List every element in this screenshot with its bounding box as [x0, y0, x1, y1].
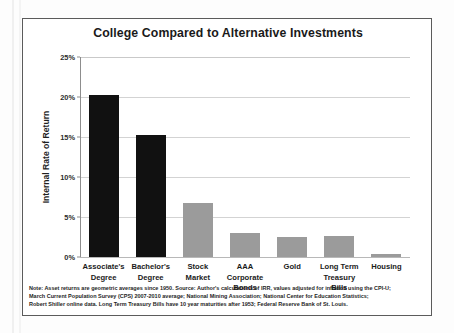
- y-axis-line: [80, 57, 81, 257]
- x-axis-label-line: Degree: [127, 273, 174, 284]
- y-tick-mark: [77, 257, 80, 258]
- bar: [136, 135, 166, 257]
- y-tick-label: 5%: [64, 213, 75, 222]
- x-axis-label: StockMarket: [174, 262, 221, 283]
- y-tick-mark: [77, 97, 80, 98]
- y-tick-label: 20%: [60, 93, 75, 102]
- gridline: [80, 177, 410, 178]
- x-axis-label-line: Gold: [269, 262, 316, 273]
- gridline: [80, 257, 410, 258]
- scanned-page: College Compared to Alternative Investme…: [0, 0, 454, 333]
- gridline: [80, 57, 410, 58]
- x-axis-label-line: Long Term: [316, 262, 363, 273]
- x-axis-label-line: Market: [174, 273, 221, 284]
- y-axis-title-text: Internal Rate of Return: [41, 111, 51, 204]
- x-axis-label-line: Housing: [363, 262, 410, 273]
- bar: [183, 203, 213, 257]
- x-axis-label-line: Associate's: [80, 262, 127, 273]
- x-axis-label: Housing: [363, 262, 410, 273]
- bar: [277, 237, 307, 257]
- source-note-line: March Current Population Survey (CPS) 20…: [29, 292, 427, 300]
- plot-inner: [80, 57, 410, 257]
- y-tick-mark: [77, 137, 80, 138]
- figure-container: College Compared to Alternative Investme…: [22, 18, 432, 316]
- x-axis-label-line: Degree: [80, 273, 127, 284]
- x-axis-label-line: AAA Corporate: [221, 262, 268, 283]
- x-axis-label-line: Stock: [174, 262, 221, 273]
- bar: [371, 254, 401, 257]
- x-axis-label: Bachelor'sDegree: [127, 262, 174, 283]
- chart-title: College Compared to Alternative Investme…: [23, 26, 433, 40]
- y-tick-mark: [77, 177, 80, 178]
- x-axis-label: Gold: [269, 262, 316, 273]
- y-tick-mark: [77, 57, 80, 58]
- y-tick-label: 25%: [60, 53, 75, 62]
- y-tick-mark: [77, 217, 80, 218]
- source-note: Note: Asset returns are geometric averag…: [29, 284, 427, 308]
- gridline: [80, 217, 410, 218]
- y-tick-label: 10%: [60, 173, 75, 182]
- y-axis-title: Internal Rate of Return: [39, 57, 53, 257]
- scan-artifact: [12, 0, 14, 333]
- y-tick-label: 15%: [60, 133, 75, 142]
- source-note-line: Note: Asset returns are geometric averag…: [29, 284, 427, 292]
- bar: [230, 233, 260, 257]
- x-axis-label-line: Bachelor's: [127, 262, 174, 273]
- bar: [324, 236, 354, 257]
- scan-artifact: [19, 0, 21, 333]
- gridline: [80, 137, 410, 138]
- source-note-line: Robert Shiller online data. Long Term Tr…: [29, 300, 427, 308]
- plot-area: 0%5%10%15%20%25%: [80, 57, 410, 257]
- bar: [89, 95, 119, 257]
- y-tick-label: 0%: [64, 253, 75, 262]
- x-axis-label: Associate'sDegree: [80, 262, 127, 283]
- gridline: [80, 97, 410, 98]
